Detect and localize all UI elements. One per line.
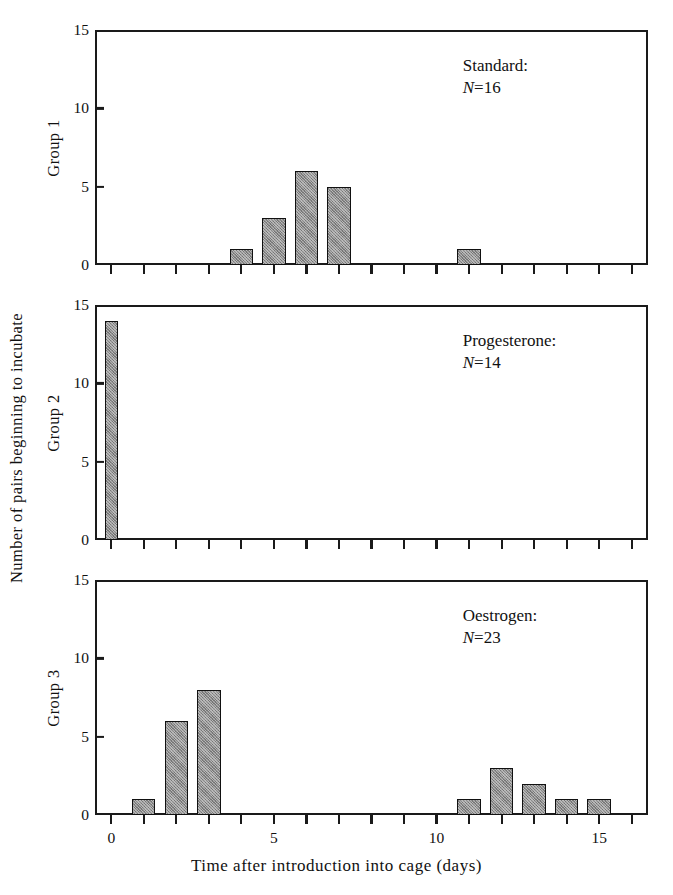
x-tick-mark [501,540,503,549]
bar [522,784,545,815]
x-tick-mark [338,540,340,549]
x-tick-mark [631,265,633,274]
panel-row-label-text: Group 2 [44,394,64,451]
y-tick-mark [95,382,104,384]
y-tick-label: 10 [61,376,89,392]
x-tick-mark [273,265,275,274]
x-tick-mark [598,265,600,274]
x-tick-mark [338,265,340,274]
x-tick-mark [566,265,568,274]
x-tick-mark [533,265,535,274]
annotation-n-value: 16 [484,78,501,97]
x-tick-mark [631,815,633,824]
panel-row-label-text: Group 1 [44,119,64,176]
annotation-sample-size: N=14 [463,352,556,374]
bar [457,249,480,265]
y-axis-title: Number of pairs beginning to incubate [0,0,34,895]
annotation-n-value: 14 [484,353,501,372]
x-tick-mark [305,265,307,274]
x-tick-label: 10 [429,829,445,847]
y-tick-mark [95,461,104,463]
annotation-n-equals: = [474,78,484,97]
bar [327,187,350,265]
x-tick-mark [501,815,503,824]
annotation-n-equals: = [474,353,484,372]
x-tick-mark [273,815,275,824]
x-tick-mark [305,815,307,824]
bar [197,690,220,815]
x-tick-mark [566,540,568,549]
bar [230,249,253,265]
x-tick-mark [501,265,503,274]
x-tick-label: 0 [107,829,115,847]
x-tick-mark [468,265,470,274]
bar [262,218,285,265]
x-tick-mark [403,265,405,274]
x-tick-mark [403,815,405,824]
annotation-sample-size: N=23 [463,627,538,649]
y-tick-label: 15 [61,572,89,588]
x-tick-mark [175,265,177,274]
bar [165,721,188,815]
x-tick-mark [468,815,470,824]
panel-annotation-group-2: Progesterone:N=14 [463,330,556,374]
bar [295,171,318,265]
x-tick-mark [240,815,242,824]
x-tick-mark [110,265,112,274]
annotation-treatment: Progesterone: [463,330,556,352]
y-tick-label: 10 [61,651,89,667]
annotation-treatment: Standard: [463,55,528,77]
y-tick-label: 5 [61,454,89,470]
x-tick-mark [435,815,437,824]
panel-row-label-text: Group 3 [44,669,64,726]
panel-annotation-group-1: Standard:N=16 [463,55,528,99]
panel-annotation-group-3: Oestrogen:N=23 [463,605,538,649]
plot-panel-group-1 [95,30,648,265]
y-axis-title-text: Number of pairs beginning to incubate [7,312,27,582]
panel-row-label-group-2: Group 2 [34,305,74,540]
y-tick-label: 5 [61,729,89,745]
x-tick-mark [533,815,535,824]
y-tick-label: 0 [61,257,89,273]
bar [587,799,610,815]
annotation-treatment: Oestrogen: [463,605,538,627]
panel-row-label-group-3: Group 3 [34,580,74,815]
y-tick-mark [95,107,104,109]
x-tick-mark [338,815,340,824]
x-tick-mark [208,540,210,549]
x-tick-mark [468,540,470,549]
annotation-n-equals: = [474,628,484,647]
y-tick-label: 10 [61,101,89,117]
y-tick-mark [95,186,104,188]
x-tick-mark [143,265,145,274]
y-tick-label: 0 [61,807,89,823]
annotation-n-symbol: N [463,628,474,647]
annotation-n-value: 23 [484,628,501,647]
x-tick-label: 5 [270,829,278,847]
y-tick-label: 15 [61,22,89,38]
x-tick-mark [208,265,210,274]
figure-container: Number of pairs beginning to incubate Gr… [0,0,673,895]
x-tick-mark [403,540,405,549]
x-tick-mark [240,540,242,549]
x-tick-mark [566,815,568,824]
x-tick-mark [240,265,242,274]
x-tick-mark [370,265,372,274]
y-tick-label: 0 [61,532,89,548]
x-tick-mark [435,540,437,549]
x-axis-title: Time after introduction into cage (days) [0,856,673,876]
annotation-n-symbol: N [463,78,474,97]
x-tick-mark [305,540,307,549]
plot-panel-group-2 [95,305,648,540]
x-tick-mark [370,815,372,824]
x-tick-mark [110,540,112,549]
panel-row-label-group-1: Group 1 [34,30,74,265]
x-tick-mark [370,540,372,549]
x-tick-mark [175,815,177,824]
y-tick-mark [95,736,104,738]
x-tick-mark [631,540,633,549]
x-tick-mark [208,815,210,824]
y-tick-label: 15 [61,297,89,313]
x-tick-mark [435,265,437,274]
y-tick-label: 5 [61,179,89,195]
